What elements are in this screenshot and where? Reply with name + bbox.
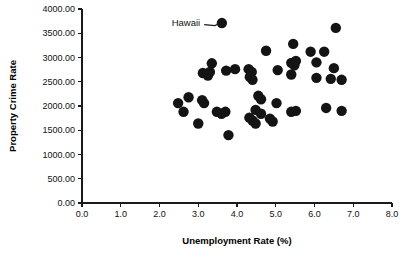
data-point: [247, 75, 257, 85]
data-point: [271, 98, 281, 108]
y-tick-label: 3500.00: [42, 28, 75, 38]
y-axis-title: Property Crime Rate: [7, 60, 18, 152]
data-point: [326, 74, 336, 84]
y-tick-label: 0.00: [57, 198, 75, 208]
annotation-label: Hawaii: [172, 17, 201, 28]
data-point: [305, 46, 315, 56]
data-point: [256, 94, 266, 104]
scatter-plot-figure: 0.00500.001000.001500.002000.002500.0030…: [0, 0, 409, 257]
data-point: [205, 67, 215, 77]
data-point: [230, 64, 240, 74]
data-point: [288, 39, 298, 49]
x-tick-label: 8.0: [386, 209, 399, 219]
data-point: [272, 65, 282, 75]
data-point: [311, 57, 321, 67]
y-tick-label: 500.00: [47, 174, 75, 184]
data-point: [223, 130, 233, 140]
y-tick-label: 4000.00: [42, 4, 75, 14]
y-axis-ticks: 0.00500.001000.001500.002000.002500.0030…: [42, 4, 82, 208]
x-tick-label: 0.0: [76, 209, 89, 219]
x-tick-label: 7.0: [347, 209, 360, 219]
annotation-layer: Hawaii: [172, 17, 220, 28]
data-point: [250, 118, 260, 128]
y-tick-label: 1500.00: [42, 125, 75, 135]
x-tick-label: 6.0: [308, 209, 321, 219]
x-axis-ticks: 0.01.02.03.04.05.06.07.08.0: [76, 203, 399, 219]
data-point: [261, 46, 271, 56]
data-point: [336, 106, 346, 116]
y-tick-label: 1000.00: [42, 150, 75, 160]
x-tick-label: 5.0: [269, 209, 282, 219]
data-point: [336, 75, 346, 85]
data-point: [221, 65, 231, 75]
data-point: [319, 46, 329, 56]
plot-canvas: 0.00500.001000.001500.002000.002500.0030…: [0, 0, 409, 257]
y-tick-label: 2500.00: [42, 77, 75, 87]
data-point: [256, 109, 266, 119]
data-point: [311, 73, 321, 83]
data-point: [193, 118, 203, 128]
data-point: [178, 107, 188, 117]
data-point: [207, 58, 217, 68]
y-tick-label: 3000.00: [42, 53, 75, 63]
data-point: [321, 103, 331, 113]
data-point: [217, 18, 227, 28]
data-point: [173, 98, 183, 108]
data-point: [220, 107, 230, 117]
data-point: [291, 106, 301, 116]
data-point: [183, 92, 193, 102]
y-tick-label: 2000.00: [42, 101, 75, 111]
x-tick-label: 4.0: [231, 209, 244, 219]
data-point: [329, 63, 339, 73]
x-axis-title: Unemployment Rate (%): [182, 235, 291, 246]
x-tick-label: 1.0: [114, 209, 127, 219]
x-tick-label: 2.0: [153, 209, 166, 219]
data-points-layer: [173, 18, 347, 140]
x-tick-label: 3.0: [192, 209, 205, 219]
data-point: [286, 69, 296, 79]
data-point: [289, 60, 299, 70]
data-point: [199, 98, 209, 108]
data-point: [331, 23, 341, 33]
data-point: [267, 116, 277, 126]
